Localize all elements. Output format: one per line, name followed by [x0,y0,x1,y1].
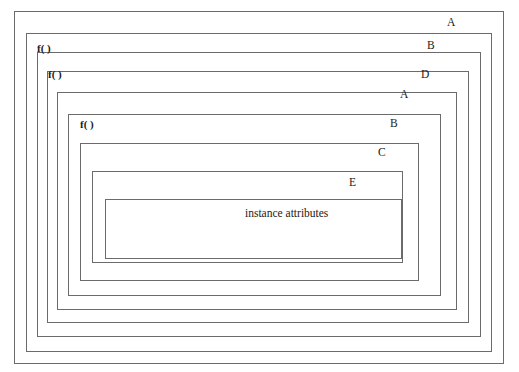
scope-label-c: C [378,147,386,159]
instance-attributes-label: instance attributes [245,208,328,220]
function-call-label-1: f( ) [37,43,51,54]
scope-label-b-outer: B [427,40,435,52]
function-call-label-3: f( ) [80,119,94,130]
scope-label-b-inner: B [390,118,398,130]
function-call-label-2: f( ) [48,69,62,80]
scope-label-a-outer: A [447,17,456,29]
scope-label-a-inner: A [400,89,409,101]
scope-label-d: D [421,69,430,81]
scope-label-e: E [349,177,356,189]
diagram-canvas: A B D A B C E f( ) f( ) f( ) instance at… [0,0,519,372]
